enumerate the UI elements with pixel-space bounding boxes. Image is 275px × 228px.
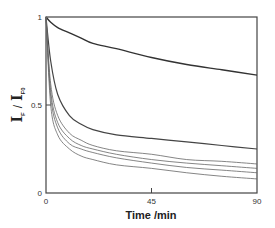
y-tick-label: 0.5 xyxy=(31,101,43,110)
series-line-curve-1 xyxy=(46,17,257,75)
series-line-curve-5 xyxy=(46,17,257,173)
x-tick-label: 90 xyxy=(253,197,262,206)
decay-chart: 0459000.51 Time /min IF/IF0 xyxy=(0,0,275,228)
y-axis-label: IF/IF0 xyxy=(9,87,26,123)
y-label-sub1: F xyxy=(20,112,26,116)
x-tick-label: 0 xyxy=(44,197,49,206)
svg-text:IF/IF0: IF/IF0 xyxy=(9,87,26,123)
x-tick-label: 45 xyxy=(147,197,156,206)
y-tick-label: 1 xyxy=(38,13,43,22)
y-label-sub2: F0 xyxy=(20,87,26,95)
y-label-slash: / xyxy=(11,104,25,108)
axis-ticks xyxy=(46,105,152,193)
plot-frame xyxy=(46,17,257,193)
y-tick-label: 0 xyxy=(38,189,43,198)
data-series xyxy=(46,17,257,179)
x-axis-label: Time /min xyxy=(125,209,176,221)
series-line-curve-3 xyxy=(46,17,257,164)
